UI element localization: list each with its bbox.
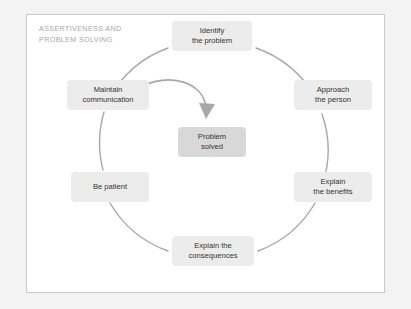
page-title: ASSERTIVENESS AND PROBLEM SOLVING xyxy=(39,24,189,45)
cycle-node-maintain[interactable]: Maintain communication xyxy=(67,80,149,110)
figure-root: ASSERTIVENESS AND PROBLEM SOLVING Identi… xyxy=(0,0,411,309)
center-node-problem-solved[interactable]: Problem solved xyxy=(178,127,246,157)
cycle-node-be-patient[interactable]: Be patient xyxy=(71,172,149,202)
cycle-node-approach[interactable]: Approach the person xyxy=(294,80,372,110)
cycle-node-consequences[interactable]: Explain the consequences xyxy=(172,236,254,266)
cycle-node-benefits[interactable]: Explain the benefits xyxy=(294,172,372,202)
cycle-node-identify[interactable]: Identify the problem xyxy=(172,21,252,51)
